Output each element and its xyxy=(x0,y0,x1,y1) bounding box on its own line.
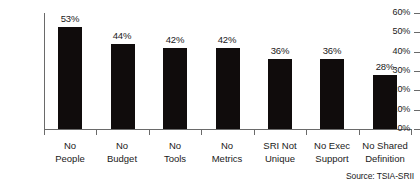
bar xyxy=(216,48,240,129)
bar-value-label: 42% xyxy=(201,34,253,45)
bar xyxy=(268,59,292,129)
x-axis-category-label: No ExecSupport xyxy=(306,140,358,165)
bar xyxy=(163,48,187,129)
bar-value-label: 36% xyxy=(254,45,306,56)
y-axis-tick-mark xyxy=(414,13,420,14)
category-label-line: No Exec xyxy=(306,140,358,153)
x-axis-tick-mark xyxy=(306,129,307,135)
x-axis-tick-mark xyxy=(254,129,255,135)
x-axis-category-label: NoMetrics xyxy=(201,140,253,165)
category-label-line: Unique xyxy=(254,153,306,166)
category-label-line: No xyxy=(149,140,201,153)
bar xyxy=(111,44,135,129)
source-note: Source: TSIA-SRII xyxy=(346,171,414,181)
y-axis-tick-mark xyxy=(414,71,420,72)
bar-value-label: 36% xyxy=(306,45,358,56)
bar-value-label: 28% xyxy=(359,61,411,72)
y-axis-tick-label: 50% xyxy=(370,26,410,36)
y-axis-tick-mark xyxy=(414,90,420,91)
bar xyxy=(373,75,397,129)
x-axis-tick-mark xyxy=(96,129,97,135)
category-label-line: Definition xyxy=(359,153,411,166)
category-label-line: SRI Not xyxy=(254,140,306,153)
x-axis-category-label: No SharedDefinition xyxy=(359,140,411,165)
x-axis-tick-mark xyxy=(411,129,412,135)
bar xyxy=(58,27,82,129)
x-axis-tick-mark xyxy=(149,129,150,135)
y-axis-tick-label: 60% xyxy=(370,7,410,17)
bar-value-label: 44% xyxy=(96,30,148,41)
category-label-line: No xyxy=(96,140,148,153)
y-axis-tick-mark xyxy=(414,129,420,130)
y-axis-tick-mark xyxy=(414,32,420,33)
y-axis-tick-mark xyxy=(414,52,420,53)
category-label-line: Metrics xyxy=(201,153,253,166)
bar-value-label: 53% xyxy=(44,13,96,24)
x-axis-tick-mark xyxy=(44,129,45,135)
x-axis-category-label: SRI NotUnique xyxy=(254,140,306,165)
category-label-line: Tools xyxy=(149,153,201,166)
category-label-line: Budget xyxy=(96,153,148,166)
category-label-line: No xyxy=(201,140,253,153)
x-axis-category-label: NoBudget xyxy=(96,140,148,165)
category-label-line: People xyxy=(44,153,96,166)
category-label-line: Support xyxy=(306,153,358,166)
y-axis-line xyxy=(44,13,45,130)
x-axis-category-label: NoPeople xyxy=(44,140,96,165)
bar xyxy=(320,59,344,129)
bar-chart: 60%50%40%30%20%10%0% 53%44%42%42%36%36%2… xyxy=(0,0,420,193)
x-axis-line xyxy=(44,129,411,130)
y-axis-tick-mark xyxy=(414,110,420,111)
category-label-line: No xyxy=(44,140,96,153)
category-label-line: No Shared xyxy=(359,140,411,153)
x-axis-category-label: NoTools xyxy=(149,140,201,165)
y-axis-tick-label: 40% xyxy=(370,46,410,56)
x-axis-tick-mark xyxy=(201,129,202,135)
bar-value-label: 42% xyxy=(149,34,201,45)
x-axis-tick-mark xyxy=(359,129,360,135)
